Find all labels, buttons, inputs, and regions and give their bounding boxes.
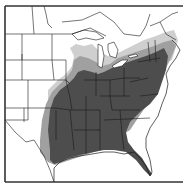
range-map (0, 0, 183, 187)
